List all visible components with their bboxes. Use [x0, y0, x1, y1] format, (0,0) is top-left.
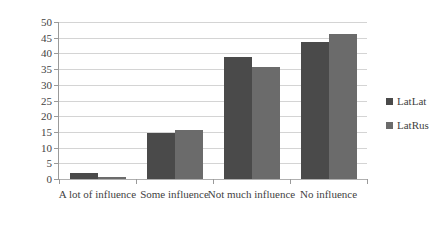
legend-label: LatRus [397, 120, 429, 131]
y-axis-tick [54, 132, 59, 133]
y-axis-tick [54, 116, 59, 117]
x-axis-category-label: A lot of influence [53, 188, 142, 201]
legend-item-latlat[interactable]: LatLat [386, 93, 441, 110]
legend-item-latrus[interactable]: LatRus [386, 117, 441, 134]
chart-legend: LatLatLatRus [386, 93, 441, 141]
x-axis-category-label: No influence [284, 188, 373, 201]
x-axis-labels: A lot of influenceSome influenceNot much… [0, 0, 441, 226]
x-axis-category-label: Not much influence [207, 188, 296, 201]
legend-swatch-icon [386, 122, 393, 129]
y-axis-tick [54, 38, 59, 39]
bar-chart: 05101520253035404550 A lot of influenceS… [0, 0, 441, 226]
y-axis-tick [54, 69, 59, 70]
legend-label: LatLat [397, 96, 426, 107]
y-axis-tick [54, 85, 59, 86]
x-axis-category-label: Some influence [130, 188, 219, 201]
y-axis-tick [54, 148, 59, 149]
y-axis-tick [54, 53, 59, 54]
y-axis-tick [54, 101, 59, 102]
legend-swatch-icon [386, 98, 393, 105]
y-axis-tick [54, 22, 59, 23]
y-axis-tick [54, 163, 59, 164]
y-axis-tick [54, 179, 59, 180]
